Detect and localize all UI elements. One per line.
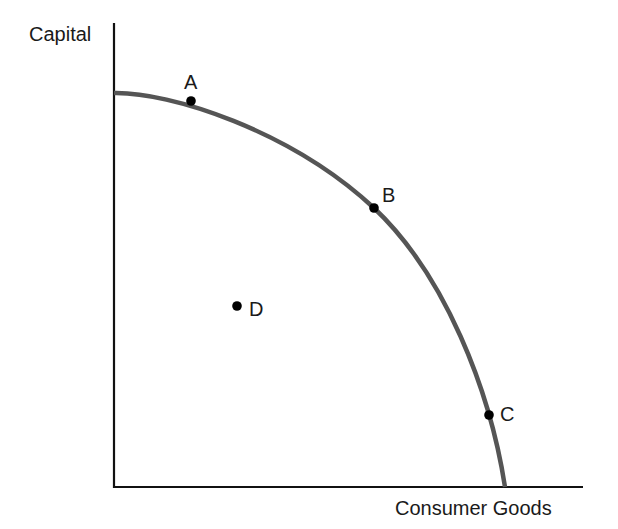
- point-a-marker: [186, 96, 196, 106]
- y-axis-label: Capital: [29, 24, 91, 44]
- point-a-label: A: [184, 72, 197, 92]
- x-axis-label: Consumer Goods: [395, 498, 552, 518]
- point-c-marker: [484, 410, 494, 420]
- point-d-marker: [232, 301, 242, 311]
- point-c-label: C: [500, 404, 514, 424]
- point-b-label: B: [382, 185, 395, 205]
- point-d-label: D: [249, 299, 263, 319]
- ppf-curve: [114, 93, 505, 487]
- ppf-diagram: [0, 0, 618, 529]
- point-b-marker: [369, 203, 379, 213]
